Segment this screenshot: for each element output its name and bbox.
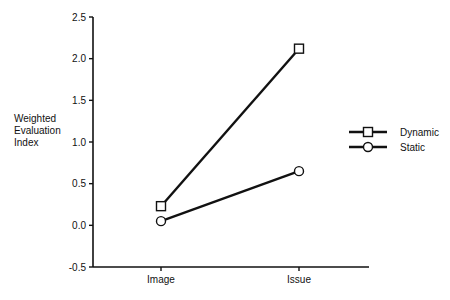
data-point-circle [157,217,166,226]
y-tick-label: 1.0 [72,137,86,148]
legend-item-dynamic: Dynamic [349,127,439,138]
y-axis-title-line: Index [14,137,38,148]
y-tick-label: 2.0 [72,53,86,64]
x-axis: ImageIssue [93,267,369,285]
data-point-square [295,44,304,53]
legend-label: Static [400,142,425,153]
data-point-circle [295,167,304,176]
legend-label: Dynamic [400,127,439,138]
series-static [157,167,304,226]
legend-marker-square [364,128,373,137]
y-tick-label: 1.5 [72,95,86,106]
series-group [157,44,304,226]
y-tick-label: 0.0 [72,220,86,231]
series-line [161,171,299,221]
y-tick-label: 2.5 [72,12,86,23]
series-dynamic [157,44,304,211]
line-chart: -0.50.00.51.01.52.02.5 ImageIssue Weight… [0,0,450,300]
y-tick-label: 0.5 [72,178,86,189]
x-tick-label: Image [147,274,175,285]
data-point-square [157,202,166,211]
y-tick-label: -0.5 [69,262,87,273]
series-line [161,49,299,207]
y-axis-title-line: Evaluation [14,125,61,136]
x-tick-label: Issue [287,274,311,285]
y-axis-title-line: Weighted [14,113,56,124]
legend-marker-circle [364,143,373,152]
legend-item-static: Static [349,142,425,153]
y-axis: -0.50.00.51.01.52.02.5 [69,12,93,273]
y-axis-title: WeightedEvaluationIndex [14,113,61,148]
legend: DynamicStatic [349,127,439,153]
